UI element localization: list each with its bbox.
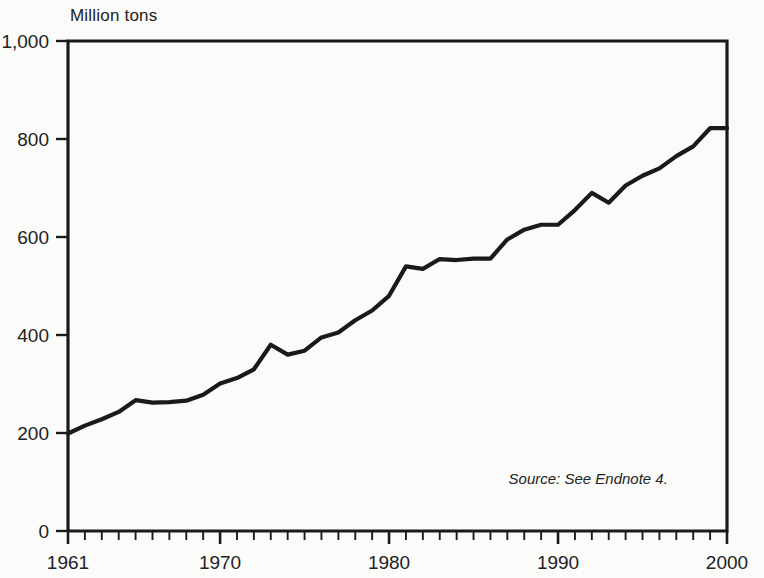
y-axis-tick-label: 400 [17,325,49,346]
y-axis-tick-label: 200 [17,423,49,444]
line-chart: 02004006008001,00019611970198019902000So… [0,0,764,578]
x-axis-tick-label: 2000 [706,552,748,573]
data-line-series [68,128,727,433]
x-axis-tick-label: 1970 [199,552,241,573]
y-axis-tick-label: 1,000 [1,31,49,52]
x-axis-tick-label: 1961 [47,552,89,573]
y-axis-tick-label: 800 [17,129,49,150]
source-annotation: Source: See Endnote 4. [509,470,668,487]
x-axis-tick-label: 1990 [537,552,579,573]
chart-page: Million tons 02004006008001,000196119701… [0,0,764,578]
x-axis-tick-label: 1980 [368,552,410,573]
y-axis-tick-label: 0 [38,521,49,542]
plot-frame [68,41,727,531]
y-axis-tick-label: 600 [17,227,49,248]
